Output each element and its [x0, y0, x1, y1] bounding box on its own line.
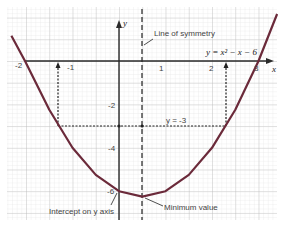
- minimum-label: Minimum value: [164, 203, 218, 212]
- x-axis-label: x: [271, 64, 276, 74]
- x-tick-minus-2: -2: [15, 61, 23, 70]
- graph-figure: -2 -1 1 2 3 x y -2 -4 -6 Line of symmetr…: [0, 0, 285, 227]
- equation-label: y = x² − x − 6: [205, 47, 257, 57]
- y-tick-minus-4: -4: [108, 144, 116, 153]
- y-tick-minus-6: -6: [107, 187, 115, 196]
- y-tick-minus-2: -2: [108, 101, 116, 110]
- y-axis-label: y: [122, 18, 127, 28]
- intercept-label: Intercept on y axis: [49, 207, 114, 216]
- x-tick-minus-1: -1: [67, 63, 75, 72]
- y-minus-3-label: y = -3: [166, 116, 187, 125]
- parabola-graph: -2 -1 1 2 3 x y -2 -4 -6 Line of symmetr…: [0, 0, 285, 227]
- x-tick-3: 3: [254, 64, 259, 73]
- line-of-symmetry-label: Line of symmetry: [154, 29, 215, 38]
- symmetry-y-minus-3-point: [140, 124, 143, 127]
- x-tick-2: 2: [209, 64, 214, 73]
- y-intercept-point: [117, 124, 120, 127]
- x-tick-1: 1: [159, 64, 164, 73]
